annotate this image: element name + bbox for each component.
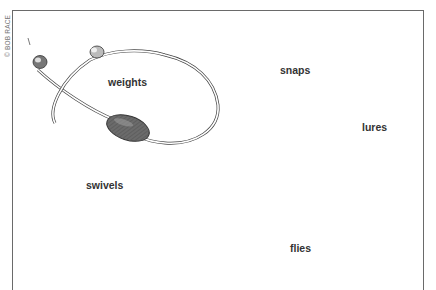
weights-drawing xyxy=(28,38,218,146)
label-swivels: swivels xyxy=(86,179,123,191)
label-flies: flies xyxy=(290,242,311,254)
label-snaps: snaps xyxy=(280,64,310,76)
label-weights: weights xyxy=(108,76,147,88)
label-lures: lures xyxy=(362,121,387,133)
